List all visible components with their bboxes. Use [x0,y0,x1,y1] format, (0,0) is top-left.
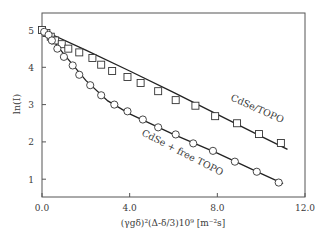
plot-area: 0.04.08.012.012345 CdSe/TOPO CdSe + free… [0,0,326,239]
circle-marker [111,101,118,108]
square-marker [65,45,72,52]
square-marker [155,88,162,95]
chart: 0.04.08.012.012345 CdSe/TOPO CdSe + free… [0,0,326,239]
y-tick-label: 1 [28,175,34,185]
square-marker [109,68,116,75]
y-tick-label: 5 [28,26,34,36]
circle-marker [48,37,55,44]
circle-marker [60,53,67,60]
square-marker [89,54,96,61]
circle-marker [98,92,105,99]
square-marker [255,131,262,138]
circle-marker [54,45,61,52]
x-axis-label: (γgδ)²(Δ-δ/3)10⁹ [m⁻²s] [121,218,225,228]
circle-marker [124,108,131,115]
x-tick-label: 4.0 [123,203,138,213]
square-marker [172,97,179,104]
x-tick-label: 0.0 [35,203,50,213]
circle-marker [231,158,238,165]
y-tick-label: 2 [28,137,34,147]
square-marker [98,61,105,68]
circle-marker [155,124,162,131]
square-marker [212,113,219,120]
square-marker [76,49,83,56]
circle-marker [172,131,179,138]
y-tick-label: 4 [28,63,34,73]
fit-line [42,30,288,149]
square-marker [192,102,199,109]
square-marker [277,140,284,147]
circle-marker [209,147,216,154]
y-axis-label: ln(I) [11,94,22,114]
y-tick-label: 3 [28,100,34,110]
square-marker [137,79,144,86]
circle-marker [69,62,76,69]
x-tick-label: 8.0 [210,203,225,213]
circle-marker [275,179,282,186]
square-marker [124,73,131,80]
circle-marker [139,116,146,123]
circle-marker [76,71,83,78]
circle-marker [87,82,94,89]
circle-marker [190,140,197,147]
circle-marker [253,168,260,175]
square-marker [234,120,241,127]
x-tick-label: 12.0 [295,203,315,213]
